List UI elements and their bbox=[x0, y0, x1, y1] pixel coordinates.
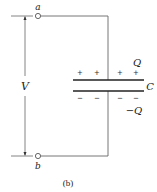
terminal-a-label: a bbox=[35, 2, 40, 12]
plus-sign: + bbox=[77, 68, 82, 78]
minus-sign: − bbox=[94, 93, 99, 103]
plus-sign: + bbox=[133, 68, 138, 78]
arrow-up-icon bbox=[24, 16, 27, 20]
terminal-b-label: b bbox=[35, 161, 41, 171]
voltage-label: V bbox=[21, 80, 30, 93]
plus-sign: + bbox=[117, 68, 122, 78]
capacitance-label: C bbox=[146, 81, 154, 92]
minus-sign: − bbox=[133, 93, 138, 103]
terminal-b: b bbox=[35, 153, 41, 171]
circuit-wires bbox=[41, 16, 108, 156]
terminal-a: a bbox=[35, 2, 40, 19]
minus-sign: − bbox=[77, 93, 82, 103]
capacitor-diagram: V a b + + + + − − − − Q C −Q (b) bbox=[0, 0, 157, 192]
figure-caption: (b) bbox=[63, 178, 74, 188]
terminal-b-circle bbox=[35, 153, 40, 158]
minus-sign: − bbox=[117, 93, 122, 103]
charge-neg-q-label: −Q bbox=[126, 105, 143, 116]
terminal-a-circle bbox=[35, 13, 40, 18]
capacitor: + + + + − − − − Q C −Q bbox=[73, 57, 154, 116]
plus-sign: + bbox=[94, 68, 99, 78]
arrow-down-icon bbox=[24, 152, 27, 156]
voltage-indicator: V bbox=[11, 16, 33, 156]
charge-q-label: Q bbox=[133, 57, 141, 68]
